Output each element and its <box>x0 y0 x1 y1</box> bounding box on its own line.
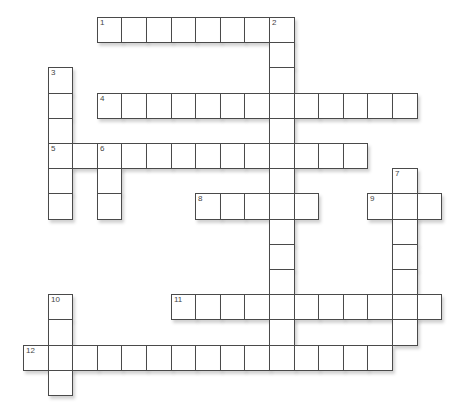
crossword-cell-r0-c9[interactable] <box>244 17 270 43</box>
crossword-cell-r0-c4[interactable] <box>121 17 147 43</box>
letter-input[interactable] <box>122 144 146 168</box>
letter-input[interactable] <box>221 346 244 370</box>
crossword-cell-r3-c9[interactable] <box>244 93 270 119</box>
letter-input[interactable] <box>73 346 97 370</box>
letter-input[interactable] <box>270 18 294 42</box>
letter-input[interactable] <box>221 144 244 168</box>
crossword-cell-r7-c11[interactable] <box>294 193 319 220</box>
crossword-cell-r7-c16[interactable] <box>417 193 442 220</box>
crossword-cell-r11-c16[interactable] <box>417 294 442 320</box>
crossword-cell-r3-c1[interactable] <box>48 93 73 119</box>
letter-input[interactable] <box>98 169 121 193</box>
crossword-cell-r11-c8[interactable] <box>220 294 245 320</box>
letter-input[interactable] <box>270 320 294 345</box>
crossword-cell-r13-c12[interactable] <box>318 345 344 371</box>
letter-input[interactable] <box>49 144 72 168</box>
letter-input[interactable] <box>122 346 146 370</box>
letter-input[interactable] <box>49 68 72 93</box>
crossword-cell-r11-c11[interactable] <box>294 294 319 320</box>
crossword-cell-r11-c10[interactable] <box>269 294 295 320</box>
crossword-cell-r5-c6[interactable] <box>171 143 196 169</box>
crossword-cell-r9-c10[interactable] <box>269 244 295 270</box>
crossword-cell-r10-c10[interactable] <box>269 269 295 295</box>
letter-input[interactable] <box>221 18 244 42</box>
crossword-cell-r5-c9[interactable] <box>244 143 270 169</box>
letter-input[interactable] <box>393 220 417 244</box>
crossword-cell-r0-c3[interactable]: 1 <box>97 17 122 43</box>
letter-input[interactable] <box>418 295 441 319</box>
letter-input[interactable] <box>147 144 171 168</box>
letter-input[interactable] <box>270 169 294 193</box>
letter-input[interactable] <box>221 94 244 118</box>
letter-input[interactable] <box>98 144 121 168</box>
crossword-cell-r7-c1[interactable] <box>48 193 73 220</box>
letter-input[interactable] <box>196 346 220 370</box>
letter-input[interactable] <box>172 94 195 118</box>
crossword-cell-r3-c4[interactable] <box>121 93 147 119</box>
letter-input[interactable] <box>122 18 146 42</box>
letter-input[interactable] <box>368 295 392 319</box>
letter-input[interactable] <box>147 18 171 42</box>
letter-input[interactable] <box>270 270 294 294</box>
letter-input[interactable] <box>49 295 72 319</box>
letter-input[interactable] <box>295 194 318 219</box>
letter-input[interactable] <box>295 94 318 118</box>
crossword-cell-r5-c12[interactable] <box>318 143 344 169</box>
letter-input[interactable] <box>49 320 72 345</box>
letter-input[interactable] <box>147 94 171 118</box>
crossword-cell-r13-c5[interactable] <box>146 345 172 371</box>
crossword-cell-r7-c14[interactable]: 9 <box>367 193 393 220</box>
crossword-cell-r3-c7[interactable] <box>195 93 221 119</box>
crossword-cell-r2-c1[interactable]: 3 <box>48 67 73 94</box>
crossword-cell-r6-c15[interactable]: 7 <box>392 168 418 194</box>
letter-input[interactable] <box>196 295 220 319</box>
crossword-cell-r5-c1[interactable]: 5 <box>48 143 73 169</box>
letter-input[interactable] <box>393 295 417 319</box>
letter-input[interactable] <box>270 68 294 93</box>
letter-input[interactable] <box>196 18 220 42</box>
crossword-cell-r8-c15[interactable] <box>392 219 418 245</box>
crossword-cell-r4-c1[interactable] <box>48 118 73 144</box>
letter-input[interactable] <box>245 346 269 370</box>
letter-input[interactable] <box>270 245 294 269</box>
crossword-cell-r7-c10[interactable] <box>269 193 295 220</box>
crossword-cell-r13-c14[interactable] <box>367 345 393 371</box>
letter-input[interactable] <box>270 43 294 67</box>
crossword-cell-r12-c10[interactable] <box>269 319 295 346</box>
crossword-cell-r0-c6[interactable] <box>171 17 196 43</box>
crossword-cell-r7-c15[interactable] <box>392 193 418 220</box>
letter-input[interactable] <box>270 119 294 143</box>
letter-input[interactable] <box>49 94 72 118</box>
letter-input[interactable] <box>270 295 294 319</box>
letter-input[interactable] <box>172 346 195 370</box>
letter-input[interactable] <box>172 18 195 42</box>
crossword-cell-r3-c13[interactable] <box>343 93 368 119</box>
crossword-cell-r13-c8[interactable] <box>220 345 245 371</box>
crossword-cell-r5-c5[interactable] <box>146 143 172 169</box>
letter-input[interactable] <box>196 194 220 219</box>
letter-input[interactable] <box>368 346 392 370</box>
crossword-cell-r0-c10[interactable]: 2 <box>269 17 295 43</box>
crossword-cell-r13-c13[interactable] <box>343 345 368 371</box>
letter-input[interactable] <box>24 346 48 370</box>
crossword-cell-r13-c3[interactable] <box>97 345 122 371</box>
letter-input[interactable] <box>393 270 417 294</box>
crossword-cell-r11-c15[interactable] <box>392 294 418 320</box>
crossword-cell-r3-c15[interactable] <box>392 93 418 119</box>
crossword-cell-r5-c4[interactable] <box>121 143 147 169</box>
letter-input[interactable] <box>172 144 195 168</box>
crossword-cell-r3-c3[interactable]: 4 <box>97 93 122 119</box>
crossword-cell-r3-c10[interactable] <box>269 93 295 119</box>
crossword-cell-r9-c15[interactable] <box>392 244 418 270</box>
crossword-cell-r12-c15[interactable] <box>392 319 418 346</box>
letter-input[interactable] <box>98 346 121 370</box>
crossword-cell-r13-c7[interactable] <box>195 345 221 371</box>
crossword-cell-r11-c1[interactable]: 10 <box>48 294 73 320</box>
crossword-cell-r3-c8[interactable] <box>220 93 245 119</box>
crossword-cell-r7-c3[interactable] <box>97 193 122 220</box>
letter-input[interactable] <box>319 144 343 168</box>
letter-input[interactable] <box>270 144 294 168</box>
crossword-cell-r5-c10[interactable] <box>269 143 295 169</box>
crossword-cell-r3-c6[interactable] <box>171 93 196 119</box>
letter-input[interactable] <box>295 346 318 370</box>
